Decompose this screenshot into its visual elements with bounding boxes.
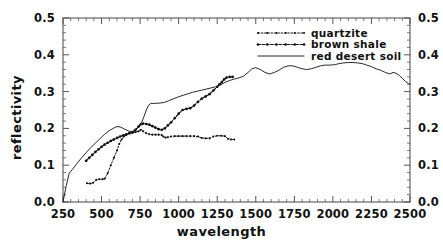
y-tick-label-right: 0.2 xyxy=(418,121,439,135)
series-marker xyxy=(138,130,140,132)
series-marker xyxy=(100,145,103,148)
series-marker xyxy=(181,135,183,137)
series-marker xyxy=(167,124,170,127)
series-marker xyxy=(128,132,131,135)
y-tick-label-left: 0.3 xyxy=(34,85,55,99)
series-marker xyxy=(142,130,144,132)
series-marker xyxy=(177,112,180,115)
series-marker xyxy=(197,101,200,104)
chart-canvas: 0.00.10.20.30.40.5 0.00.10.20.30.40.5 25… xyxy=(0,0,443,249)
legend-marker xyxy=(293,43,296,46)
series-marker xyxy=(145,132,147,134)
x-tick-label: 1000 xyxy=(162,207,195,221)
y-tick-label-left: 0.2 xyxy=(34,121,55,135)
y-tick-label-left: 0.5 xyxy=(34,11,55,25)
series-marker xyxy=(161,134,163,136)
legend-label: red desert soil xyxy=(311,50,402,62)
series-marker xyxy=(142,122,145,125)
x-tick-label: 1500 xyxy=(239,207,272,221)
series-marker xyxy=(193,135,195,137)
series-marker xyxy=(173,117,176,120)
x-tick-label: 1750 xyxy=(278,207,311,221)
legend-label: brown shale xyxy=(311,38,387,50)
legend-label: quartzite xyxy=(311,27,368,39)
legend-marker xyxy=(294,32,296,34)
legend-marker xyxy=(303,32,305,34)
series-marker xyxy=(92,182,94,184)
series-marker xyxy=(118,143,120,145)
x-tick-label: 500 xyxy=(89,207,114,221)
series-marker xyxy=(157,128,160,131)
legend-marker xyxy=(266,43,269,46)
series-line xyxy=(87,130,234,184)
legend-marker xyxy=(303,43,306,46)
series-marker xyxy=(154,126,157,129)
series-marker xyxy=(165,137,167,139)
series-marker xyxy=(134,131,136,133)
y-tick-label-right: 0.4 xyxy=(418,48,439,62)
series-line xyxy=(63,63,410,202)
series-marker xyxy=(163,127,166,130)
series-marker xyxy=(231,76,234,79)
series-marker xyxy=(201,137,203,139)
y-tick-label-right: 0.5 xyxy=(418,11,439,25)
x-tick-label: 2500 xyxy=(394,207,427,221)
series-marker xyxy=(162,135,164,137)
series-marker xyxy=(103,143,106,146)
series-marker xyxy=(200,97,203,100)
series-marker xyxy=(116,137,119,140)
series-marker xyxy=(95,179,97,181)
series-marker xyxy=(122,134,125,137)
x-axis-label: wavelength xyxy=(0,224,443,239)
series-marker xyxy=(104,178,106,180)
series-marker xyxy=(181,109,184,112)
series-marker xyxy=(174,135,176,137)
series-marker xyxy=(193,104,196,107)
series-marker xyxy=(208,137,210,139)
y-axis-left: 0.00.10.20.30.40.5 xyxy=(34,11,69,209)
series-marker xyxy=(185,108,188,111)
series-marker xyxy=(119,135,122,138)
series-layer xyxy=(63,63,410,202)
series-marker xyxy=(220,135,222,137)
series-line xyxy=(86,77,233,161)
series-marker xyxy=(225,76,228,79)
series-marker xyxy=(97,148,100,151)
series-brown-shale xyxy=(85,76,234,163)
series-marker xyxy=(148,133,150,135)
series-marker xyxy=(170,121,173,124)
series-marker xyxy=(85,159,88,162)
series-marker xyxy=(221,81,224,84)
series-red-desert-soil xyxy=(63,63,410,202)
series-marker xyxy=(185,135,187,137)
series-marker xyxy=(227,138,229,140)
series-marker xyxy=(116,149,118,151)
y-tick-label-left: 0.4 xyxy=(34,48,55,62)
series-marker xyxy=(145,123,148,126)
series-marker xyxy=(204,95,207,98)
series-marker xyxy=(158,134,160,136)
series-marker xyxy=(170,135,172,137)
series-marker xyxy=(151,125,154,128)
x-tick-label: 750 xyxy=(128,207,153,221)
x-tick-label: 2250 xyxy=(355,207,388,221)
legend-marker xyxy=(285,32,287,34)
series-marker xyxy=(113,138,116,141)
series-marker xyxy=(110,164,112,166)
series-marker xyxy=(109,140,112,143)
series-marker xyxy=(223,78,226,81)
legend-marker xyxy=(266,32,268,34)
series-marker xyxy=(189,107,192,110)
series-marker xyxy=(197,135,199,137)
y-axis-label: reflectivity xyxy=(9,68,24,168)
series-marker xyxy=(140,129,142,131)
y-tick-label-right: 0.3 xyxy=(418,85,439,99)
series-marker xyxy=(212,89,215,92)
series-marker xyxy=(89,183,91,185)
series-marker xyxy=(230,138,232,140)
legend: quartzitebrown shalered desert soil xyxy=(257,27,402,62)
series-marker xyxy=(154,134,156,136)
series-marker xyxy=(86,182,88,184)
x-tick-label: 2000 xyxy=(316,207,349,221)
series-marker xyxy=(216,135,218,137)
